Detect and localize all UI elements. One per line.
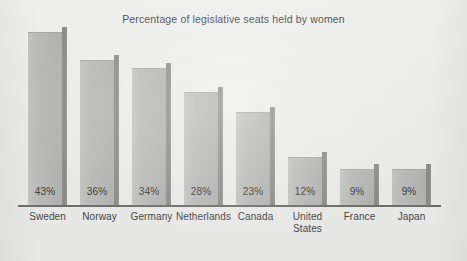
bar-value-netherlands: 28% [184,186,218,197]
bar-value-france: 9% [340,186,374,197]
bar-shadow-canada [270,107,275,205]
bar-shadow-germany [166,63,171,205]
x-axis-label-japan-line1: Japan [378,211,446,223]
x-axis-label-japan: Japan [378,211,446,223]
bar-value-norway: 36% [80,186,114,197]
x-axis-label-united-states-line2: States [274,223,342,235]
bar-united-states [288,157,322,205]
bar-value-germany: 34% [132,186,166,197]
bar-sweden [28,32,62,205]
plot-area: 43% 36% 34% 28% 23% [0,0,467,261]
bar-shadow-sweden [62,27,67,205]
bar-norway [80,60,114,205]
bar-shadow-netherlands [218,87,223,205]
x-axis-baseline [18,205,441,207]
bar-shadow-united-states [322,152,327,205]
bar-germany [132,68,166,205]
bar-value-sweden: 43% [28,186,62,197]
bar-shadow-france [374,164,379,205]
bar-value-japan: 9% [392,186,426,197]
bar-shadow-norway [114,55,119,205]
bar-shadow-japan [426,164,431,205]
bar-chart-figure: Percentage of legislative seats held by … [0,0,467,261]
bar-value-united-states: 12% [288,186,322,197]
bar-value-canada: 23% [236,186,270,197]
